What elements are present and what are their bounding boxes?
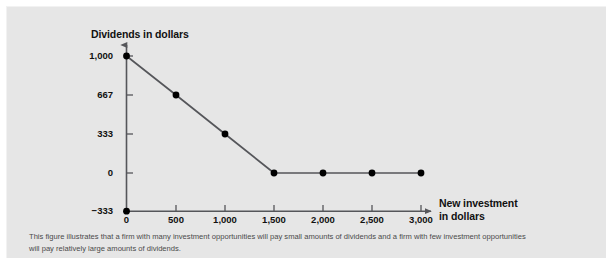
x-tick-label-1500: 1,500 (251, 214, 297, 225)
data-point (271, 170, 278, 177)
x-axis-title: New investment in dollars (439, 197, 518, 222)
x-tick-label-2000: 2,000 (300, 214, 346, 225)
dividends-line-chart (7, 7, 607, 229)
chart-plot-area: Dividends in dollars New investment in d… (7, 7, 607, 229)
y-axis-title: Dividends in dollars (91, 28, 189, 40)
data-point (369, 170, 376, 177)
y-tick-label-1000: 1,000 (69, 50, 113, 61)
figure-caption-line-2: will pay relatively large amounts of div… (29, 243, 595, 255)
y-tick-label-667: 667 (69, 89, 113, 100)
y-tick-label-0: 0 (69, 167, 113, 178)
y-axis-ticks (127, 56, 134, 173)
figure-root: Dividends in dollars New investment in d… (0, 0, 612, 258)
x-tick-label-1000: 1,000 (202, 214, 248, 225)
data-series-line (127, 56, 422, 173)
x-tick-label-500: 500 (153, 214, 199, 225)
y-tick-label-333: 333 (69, 128, 113, 139)
data-point (418, 170, 425, 177)
x-tick-label-3000: 3,000 (398, 214, 444, 225)
data-point (123, 53, 130, 60)
figure-caption: This figure illustrates that a firm with… (29, 231, 595, 254)
data-point (320, 170, 327, 177)
x-axis-title-line-2: in dollars (439, 210, 518, 223)
figure-panel: Dividends in dollars New investment in d… (6, 6, 606, 258)
x-tick-label-0: 0 (104, 214, 150, 225)
x-tick-label-2500: 2,500 (349, 214, 395, 225)
data-point (222, 131, 229, 138)
x-axis-ticks (176, 205, 421, 211)
data-point-markers (123, 53, 424, 215)
x-axis-title-line-1: New investment (439, 197, 518, 210)
figure-caption-line-1: This figure illustrates that a firm with… (29, 231, 595, 243)
data-point (173, 92, 180, 99)
